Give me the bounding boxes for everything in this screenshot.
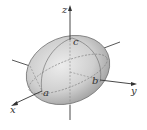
- x-axis-back: [12, 60, 30, 66]
- z-arrow-icon: [68, 5, 72, 11]
- intercept-b-label: b: [92, 76, 98, 86]
- y-axis-label: y: [131, 86, 137, 96]
- ellipsoid-diagram: [0, 0, 147, 130]
- y-axis-back: [104, 42, 120, 48]
- ellipsoid-surface: [16, 23, 120, 116]
- y-axis: [100, 80, 133, 84]
- x-axis-label: x: [10, 105, 16, 115]
- intercept-a-label: a: [43, 88, 49, 98]
- z-axis-label: z: [62, 5, 67, 15]
- intercept-c-label: c: [73, 37, 79, 47]
